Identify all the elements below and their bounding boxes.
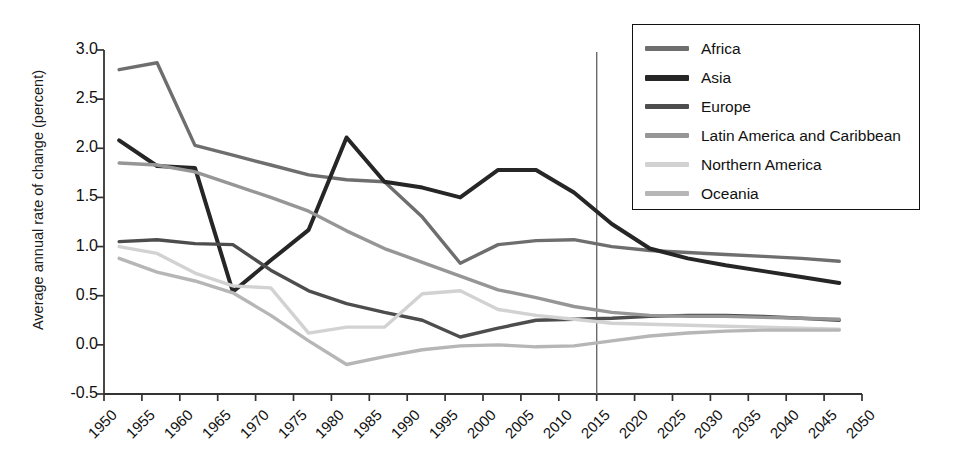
legend-item-oceania[interactable]: Oceania xyxy=(633,179,919,208)
chart-legend: AfricaAsiaEuropeLatin America and Caribb… xyxy=(632,24,920,210)
legend-swatch-icon xyxy=(645,133,689,138)
y-tick-label: 2.0 xyxy=(54,139,98,155)
y-tick-label: 3.0 xyxy=(54,41,98,57)
legend-item-africa[interactable]: Africa xyxy=(633,34,919,63)
y-tick-label: -0.5 xyxy=(54,385,98,401)
y-tick-label: 1.5 xyxy=(54,188,98,204)
legend-item-label: Northern America xyxy=(701,156,822,174)
y-axis-ticks: 3.02.52.01.51.00.50.0-0.5 xyxy=(46,0,98,473)
y-tick-label: 1.0 xyxy=(54,238,98,254)
legend-item-latin-america-and-caribbean[interactable]: Latin America and Caribbean xyxy=(633,121,919,150)
y-tick-label: 0.5 xyxy=(54,287,98,303)
legend-swatch-icon xyxy=(645,191,689,196)
legend-swatch-icon xyxy=(645,46,689,51)
legend-item-label: Latin America and Caribbean xyxy=(701,127,901,145)
legend-item-label: Europe xyxy=(701,98,751,116)
y-tick-label: 0.0 xyxy=(54,336,98,352)
y-tick-label: 2.5 xyxy=(54,90,98,106)
legend-item-asia[interactable]: Asia xyxy=(633,63,919,92)
legend-item-northern-america[interactable]: Northern America xyxy=(633,150,919,179)
legend-item-label: Oceania xyxy=(701,185,759,203)
legend-item-label: Africa xyxy=(701,40,741,58)
legend-item-europe[interactable]: Europe xyxy=(633,92,919,121)
legend-swatch-icon xyxy=(645,104,689,109)
chart-container: Average annual rate of change (percent) … xyxy=(0,0,955,473)
legend-swatch-icon xyxy=(645,75,689,81)
legend-swatch-icon xyxy=(645,162,689,167)
legend-item-label: Asia xyxy=(701,69,731,87)
